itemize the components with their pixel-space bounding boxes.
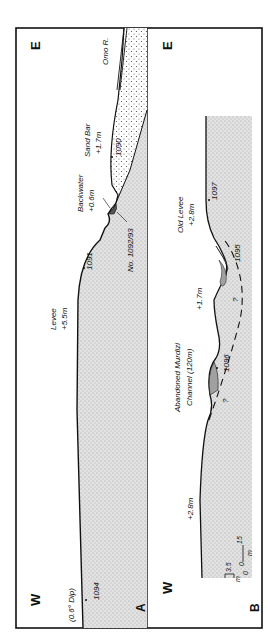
- backwater-label: Backwater: [76, 174, 85, 212]
- panel-b-deposit: [200, 116, 252, 578]
- backwater-height-label: +0.6m: [87, 189, 96, 212]
- scale-horizontal-max: 15: [236, 536, 243, 544]
- sample-1094-label: 1094: [92, 582, 101, 600]
- panel-b-west-label: W: [160, 581, 175, 594]
- sample-1097-label: 1097: [210, 182, 219, 200]
- scale-vertical-min: 0: [242, 571, 249, 575]
- river-label: Omo R.: [101, 37, 110, 65]
- question-mark-west: ?: [221, 398, 230, 403]
- old-levee-height-label: +2.8m: [187, 203, 196, 226]
- levee-label: Levee: [49, 308, 58, 330]
- scale-vertical-max: 3.5: [225, 562, 232, 572]
- dip-label: (0.6° Dip): [67, 588, 76, 622]
- panel-a-east-label: E: [28, 41, 43, 50]
- scale-horizontal-unit: m: [246, 550, 253, 556]
- sample-1090-label: 1090: [114, 138, 123, 156]
- sample-point-1094: [85, 599, 87, 601]
- sample-1096-label: 1096: [222, 354, 231, 372]
- scale-horizontal-min: 0: [238, 562, 245, 566]
- sample-1095-label: 1095: [233, 244, 242, 262]
- levee-height-label: +5.5m: [60, 307, 69, 330]
- sand-bar-label: Sand Bar: [83, 123, 92, 157]
- sample-point-1096: [216, 367, 218, 369]
- panel-b-east-label: E: [160, 41, 175, 50]
- cross-section-figure: W E A (0.6° Dip) 1094 Levee +5.5m 1091 N…: [0, 0, 270, 644]
- panel-a-west-label: W: [28, 593, 43, 606]
- panel-a-letter: A: [134, 603, 148, 612]
- panel-b: W E B +2.8m Abandoned Murdizi Channel (1…: [160, 41, 262, 612]
- question-mark-east: ?: [231, 297, 240, 302]
- sample-point-1090: [111, 156, 113, 158]
- sample-range-label: No. 1092/93: [126, 228, 135, 272]
- channel-label-line2: Channel (120m): [185, 348, 194, 406]
- channel-label-line1: Abandoned Murdizi: [173, 343, 182, 413]
- mid-height-label: +1.7m: [195, 287, 204, 310]
- panel-a: W E A (0.6° Dip) 1094 Levee +5.5m 1091 N…: [28, 28, 148, 628]
- scale-vertical-unit: m: [234, 576, 241, 582]
- west-height-label: +2.8m: [186, 497, 195, 520]
- old-levee-label: Old Levee: [176, 196, 185, 233]
- panel-b-letter: B: [248, 603, 262, 612]
- sand-bar-height-label: +1.7m: [94, 131, 103, 154]
- sample-1091-label: 1091: [85, 252, 94, 270]
